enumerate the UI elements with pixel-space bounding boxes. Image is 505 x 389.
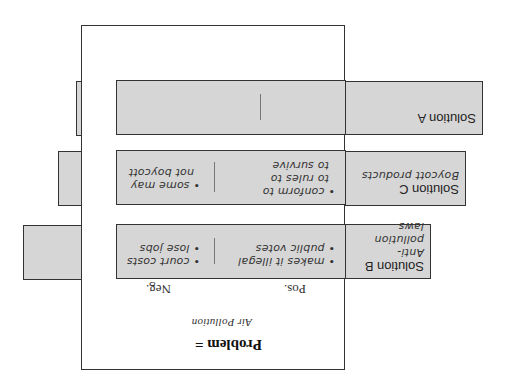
neg-item: • lose jobs — [127, 242, 200, 255]
solution-c-desc: Boycott products — [350, 169, 459, 182]
solution-b-desc-line1: Anti-pollution — [350, 233, 424, 259]
solution-c-neg: • some may not boycott — [129, 166, 200, 192]
pros-cons-row-a — [116, 80, 346, 135]
neg-item: • some may — [129, 179, 200, 192]
pos-neg-divider — [214, 162, 215, 192]
pos-item: • makes it illegal — [238, 255, 335, 268]
tab-solution-b-edge — [23, 225, 83, 280]
solution-c-card: Solution C Boycott products — [343, 151, 466, 206]
solution-b-desc-line2: laws — [350, 220, 424, 233]
solution-b-card: Solution B Anti-pollution laws — [343, 224, 431, 279]
solution-a-title: Solution A — [350, 111, 476, 126]
solution-evaluation-diagram: Solution B Anti-pollution laws Solution … — [0, 0, 505, 389]
neg-item: not boycott — [129, 166, 200, 179]
solution-b-title: Solution B — [350, 259, 424, 274]
pos-item: • public votes — [238, 242, 335, 255]
solution-b-neg: • court costs • lose jobs — [127, 242, 200, 268]
pos-neg-divider — [260, 94, 261, 120]
problem-panel: Problem = Air Pollution Pos. Neg. • make… — [81, 25, 345, 370]
neg-item: • court costs — [127, 255, 200, 268]
solution-c-title: Solution C — [350, 182, 459, 197]
solution-c-pos: • conform to to rules to to survive — [262, 159, 335, 198]
pos-item: to rules to — [262, 172, 335, 185]
problem-heading: Problem = — [195, 336, 262, 353]
pos-label: Pos. — [284, 281, 306, 297]
pos-item: • conform to — [262, 185, 335, 198]
pos-item: to survive — [262, 159, 335, 172]
pros-cons-row-b: • makes it illegal • public votes • cour… — [116, 224, 346, 279]
solution-b-pos: • makes it illegal • public votes — [238, 242, 335, 268]
neg-label: Neg. — [146, 281, 171, 297]
problem-topic: Air Pollution — [192, 316, 252, 329]
pros-cons-row-c: • conform to to rules to to survive • so… — [116, 150, 346, 205]
pos-neg-divider — [214, 238, 215, 264]
solution-a-card: Solution A — [343, 81, 483, 135]
